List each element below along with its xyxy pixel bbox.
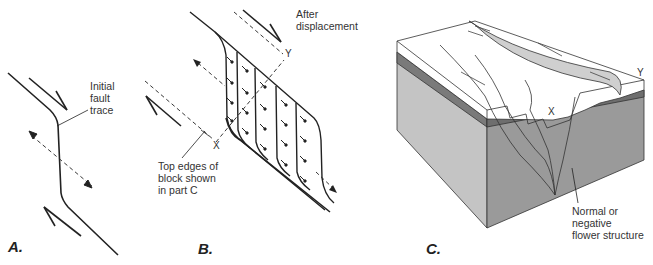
shear-arrow-upper [29, 78, 67, 110]
extension-axis-dashed [32, 136, 92, 186]
shear-arrow-lower [44, 207, 81, 236]
shear-arrow-b-upper [243, 10, 281, 42]
marker-x-c: X [548, 106, 555, 117]
top-edge-dashed-lower [145, 81, 214, 140]
panel-a-label: A. [8, 238, 23, 255]
flower-structure-label: Normal or negative flower structure [572, 205, 644, 241]
panel-b-label: B. [198, 240, 213, 257]
panel-c-block [397, 21, 644, 228]
initial-fault-trace-label: Initial fault trace [90, 80, 115, 116]
shear-arrow-b-lower [146, 96, 181, 126]
top-edges-label: Top edges of block shown in part C [158, 160, 218, 196]
marker-y-c: Y [637, 67, 644, 78]
marker-x-b: X [213, 140, 220, 151]
panel-c-label: C. [426, 240, 441, 257]
extension-axis-b [198, 63, 225, 86]
normal-fault-ticks [227, 57, 306, 182]
after-displacement-label: After displacement [296, 8, 358, 32]
fault-diagram [0, 0, 653, 265]
marker-y-b: Y [285, 48, 292, 59]
